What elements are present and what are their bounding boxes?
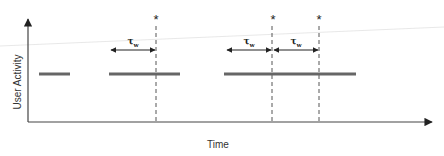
event-star-3: * — [316, 13, 321, 26]
tau-subscript: w — [296, 41, 301, 48]
diagram-graphics — [0, 0, 444, 156]
tau-subscript: w — [133, 41, 138, 48]
interval-label-1: τw — [127, 36, 138, 48]
y-axis-label: User Activity — [12, 54, 23, 109]
interval-label-2: τw — [243, 36, 254, 48]
user-activity-diagram: * * * τw τw τw User Activity Time — [0, 0, 444, 156]
event-star-1: * — [153, 13, 158, 26]
event-star-2: * — [270, 13, 275, 26]
tau-subscript: w — [249, 41, 254, 48]
x-axis-label: Time — [207, 139, 229, 150]
interval-label-3: τw — [290, 36, 301, 48]
scan-artifact-line — [0, 27, 444, 46]
